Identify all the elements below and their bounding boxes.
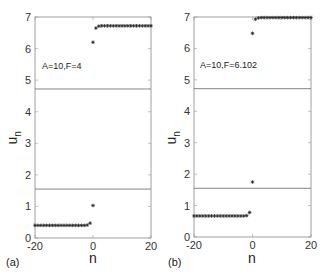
y-tick-label: 6	[184, 42, 190, 54]
data-point-star	[149, 24, 153, 28]
panel-a-ylabel-main: u	[4, 137, 20, 145]
y-tick-label: 3	[184, 137, 190, 149]
x-tick-label: -20	[27, 240, 43, 252]
data-point-star	[91, 204, 95, 208]
y-tick-label: 3	[25, 137, 31, 149]
y-tick-label: 6	[25, 43, 31, 55]
panel-a-xlabel: n	[89, 250, 97, 266]
panel-b-xlabel: n	[248, 250, 256, 266]
data-point-star	[248, 211, 252, 215]
y-tick-label: 1	[184, 200, 190, 212]
panel-b: 01234567-20020	[184, 11, 317, 251]
y-tick-label: 7	[184, 11, 190, 23]
y-tick-label: 5	[184, 74, 190, 86]
panel-a: 01234567-20020	[25, 11, 157, 252]
y-tick-label: 2	[25, 169, 31, 181]
panel-b-annotation: A=10,F=6.102	[200, 60, 257, 70]
y-tick-label: 4	[184, 105, 190, 117]
data-point-star	[251, 32, 255, 36]
panel-b-ylabel-sub: n	[171, 131, 182, 137]
panel-a-annotation: A=10,F=4	[42, 61, 82, 71]
data-point-star	[91, 40, 95, 44]
data-point-star	[251, 180, 255, 184]
data-point-star	[94, 26, 98, 30]
y-tick-label: 4	[25, 106, 31, 118]
y-tick-label: 2	[184, 168, 190, 180]
x-tick-label: -20	[186, 239, 202, 251]
data-point-star	[309, 16, 313, 20]
y-tick-label: 7	[25, 11, 31, 23]
axes-box	[194, 17, 311, 237]
x-tick-label: 20	[145, 240, 157, 252]
panel-b-label: (b)	[168, 256, 181, 268]
data-point-star	[245, 214, 249, 218]
data-point-star	[85, 223, 89, 227]
y-tick-label: 5	[25, 74, 31, 86]
panel-a-ylabel-sub: n	[12, 131, 23, 137]
panel-b-ylabel-main: u	[163, 137, 179, 145]
panel-a-label: (a)	[6, 256, 19, 268]
panel-b-ylabel: un	[164, 131, 184, 144]
x-tick-label: 20	[305, 239, 317, 251]
y-tick-label: 1	[25, 200, 31, 212]
data-point-star	[88, 221, 92, 225]
panel-a-ylabel: un	[5, 131, 25, 144]
